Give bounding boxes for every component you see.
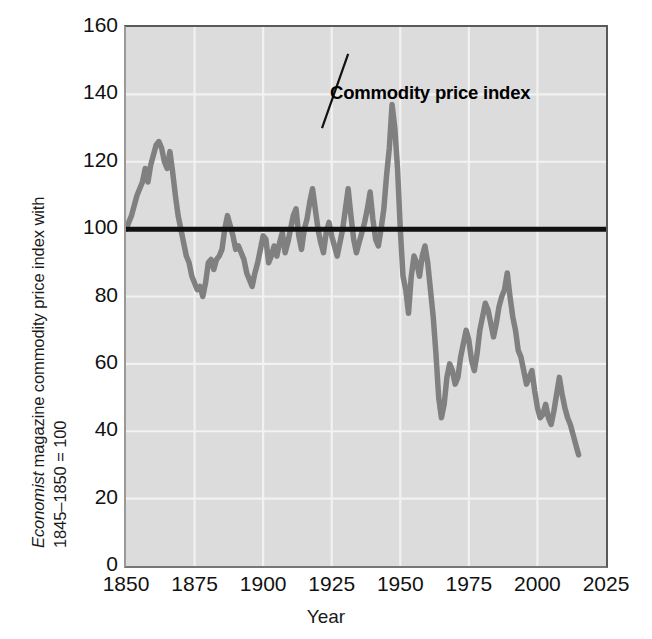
plot-area bbox=[124, 25, 608, 568]
y-tick-label: 160 bbox=[76, 14, 118, 35]
y-axis-label-rest: magazine commodity price index with bbox=[29, 197, 47, 472]
x-tick-label: 1975 bbox=[445, 572, 492, 596]
y-tick-label: 0 bbox=[76, 553, 118, 574]
x-tick-label: 1950 bbox=[377, 572, 424, 596]
y-tick-label: 60 bbox=[76, 351, 118, 372]
annotation-commodity-price-index: Commodity price index bbox=[330, 82, 530, 104]
y-tick-label: 120 bbox=[76, 149, 118, 170]
y-axis-tick-labels: 160140120100806040200 bbox=[76, 0, 118, 639]
gridlines bbox=[126, 27, 606, 566]
y-tick-label: 80 bbox=[76, 284, 118, 305]
x-axis-title: Year bbox=[0, 606, 652, 628]
y-tick-label: 100 bbox=[76, 216, 118, 237]
x-tick-label: 1900 bbox=[240, 572, 287, 596]
y-axis-label-line-1: Economist magazine commodity price index… bbox=[29, 197, 48, 548]
y-axis-label: Economist magazine commodity price index… bbox=[0, 0, 72, 580]
x-tick-label: 2025 bbox=[583, 572, 630, 596]
y-tick-label: 40 bbox=[76, 418, 118, 439]
y-tick-label: 20 bbox=[76, 486, 118, 507]
x-tick-label: 1850 bbox=[103, 572, 150, 596]
plot-svg bbox=[126, 27, 606, 566]
x-tick-label: 1875 bbox=[171, 572, 218, 596]
chart-figure: Economist magazine commodity price index… bbox=[0, 0, 652, 639]
x-axis-tick-labels: 18501875190019251950197520002025 bbox=[0, 572, 652, 602]
x-tick-label: 1925 bbox=[308, 572, 355, 596]
y-tick-label: 140 bbox=[76, 81, 118, 102]
y-axis-label-line-2: 1845–1850 = 100 bbox=[51, 421, 70, 548]
x-tick-label: 2000 bbox=[514, 572, 561, 596]
y-axis-label-italic-word: Economist bbox=[29, 472, 47, 548]
